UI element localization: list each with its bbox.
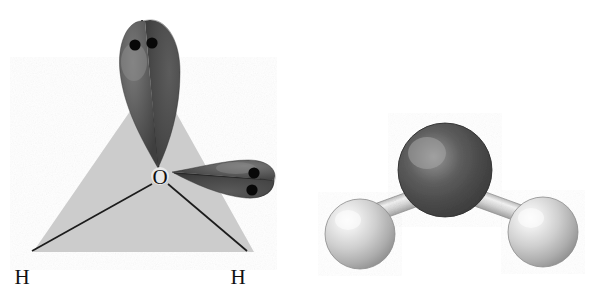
tetrahedral-orbital-diagram: O H H bbox=[0, 0, 302, 295]
electron-dot bbox=[248, 167, 259, 178]
electron-dot bbox=[129, 39, 140, 50]
oxygen-sphere bbox=[398, 123, 492, 217]
hydrogen-left-label: H bbox=[14, 265, 29, 289]
hydrogen-sphere-left bbox=[325, 199, 395, 269]
electron-dot bbox=[246, 184, 257, 195]
water-molecule-figure: O H H bbox=[0, 0, 605, 295]
electron-dot bbox=[146, 37, 157, 48]
hydrogen-right-label: H bbox=[230, 265, 245, 289]
oxygen-center-label: O bbox=[152, 165, 167, 189]
space-filling-model bbox=[302, 0, 605, 295]
hydrogen-sphere-right bbox=[508, 197, 578, 267]
